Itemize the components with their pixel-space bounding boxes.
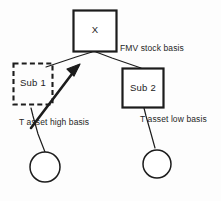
edge-sub1-to-circle-left	[31, 108, 45, 152]
edge-label-fmv-stock-basis: FMV stock basis	[120, 43, 184, 53]
diagram-canvas: X Sub 1 Sub 2 FMV stock basis T asset hi…	[0, 0, 221, 201]
edge-label-t-asset-high-basis: T asset high basis	[19, 117, 89, 127]
node-sub2-label: Sub 2	[122, 82, 164, 93]
node-circle-left	[30, 152, 60, 182]
node-circle-right	[143, 150, 171, 178]
edge-label-t-asset-low-basis: T asset low basis	[140, 114, 207, 124]
edge-x-to-sub1	[46, 52, 92, 67]
node-sub1-label: Sub 1	[13, 77, 53, 88]
edge-x-to-sub2	[96, 52, 141, 68]
node-x-label: X	[73, 24, 117, 35]
arrow-asset-transfer-head	[67, 64, 80, 76]
